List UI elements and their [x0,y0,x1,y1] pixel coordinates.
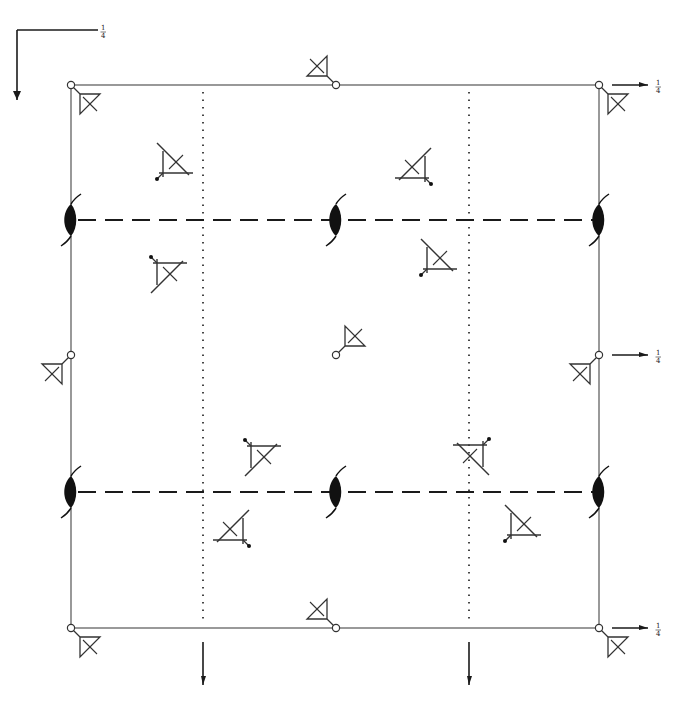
motif-dotted-icon [503,505,541,543]
inversion-centers [67,81,602,631]
symmetry-diagram: 14 14 14 14 [0,0,682,709]
motif-dotted-icon [395,148,433,186]
motif-triangle-icon [570,358,597,385]
motif-triangle-icon [339,326,366,353]
motif-triangle-icon [307,599,334,626]
motif-triangle-icon [74,88,101,115]
motif-dotted-icon [155,143,193,181]
motif-dotted-icon [419,239,457,277]
motif-dotted-icon [453,437,491,475]
motif-triangle-icon [602,88,629,115]
motif-triangle-icon [602,631,629,658]
motif-dotted-icon [213,510,251,548]
motif-dotted-icon [243,438,281,476]
motif-triangle-icon [74,631,101,658]
motif-dotted-icon [149,255,187,293]
bottom-arrows [203,642,469,685]
side-arrows: 14 14 14 [612,79,661,638]
axis-indicator: 14 [17,24,106,100]
motif-triangle-icon [42,358,69,385]
motif-triangle-icon [307,56,334,83]
